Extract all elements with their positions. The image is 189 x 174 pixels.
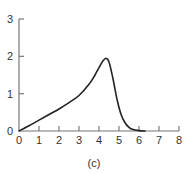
x-tick-label: 1 — [36, 134, 42, 146]
x-tick-label: 2 — [56, 134, 62, 146]
x-tick-label: 4 — [96, 134, 102, 146]
x-tick-label: 3 — [76, 134, 82, 146]
x-tick-label: 0 — [16, 134, 22, 146]
x-tick-label: 8 — [176, 134, 182, 146]
x-tick-label: 7 — [156, 134, 162, 146]
x-tick-label: 6 — [136, 134, 142, 146]
x-tick-label: 5 — [116, 134, 122, 146]
y-tick-label: 3 — [7, 13, 13, 25]
chart: 0123456780123 (c) — [0, 0, 189, 174]
data-curve — [19, 58, 145, 131]
y-tick-label: 1 — [7, 88, 13, 100]
chart-caption: (c) — [88, 157, 101, 169]
y-tick-label: 2 — [7, 50, 13, 62]
ticks: 0123456780123 — [7, 13, 182, 146]
y-tick-label: 0 — [7, 125, 13, 137]
axes — [19, 19, 179, 131]
